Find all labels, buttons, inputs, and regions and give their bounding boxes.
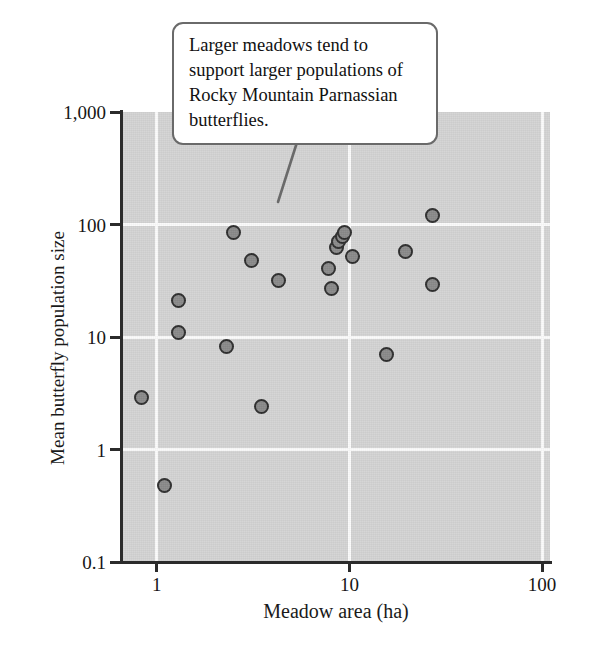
data-point [219, 339, 234, 354]
data-point [425, 277, 440, 292]
plot-area [122, 112, 550, 562]
y-tick-2 [110, 336, 120, 339]
y-tick-4 [110, 111, 120, 114]
data-point [398, 244, 413, 259]
y-tick-1 [110, 448, 120, 451]
data-point [345, 249, 360, 264]
y-tick-label-0: 0.1 [0, 553, 106, 572]
data-point [324, 281, 339, 296]
x-tick-label-0: 1 [152, 575, 162, 594]
x-axis-title: Meadow area (ha) [122, 600, 550, 623]
scatter-plot-figure: 0.11101001,000 110100 Mean butterfly pop… [0, 0, 590, 648]
data-point [171, 293, 186, 308]
y-axis-title: Mean butterfly population size [47, 198, 69, 498]
y-tick-0 [110, 561, 120, 564]
gridline-y-3 [122, 223, 550, 226]
y-tick-3 [110, 223, 120, 226]
x-tick-2 [541, 562, 544, 572]
x-tick-label-2: 100 [528, 575, 557, 594]
data-point [157, 478, 172, 493]
x-tick-1 [348, 562, 351, 572]
callout-text: Larger meadows tend to support larger po… [189, 33, 423, 133]
data-point [171, 325, 186, 340]
gridline-y-1 [122, 448, 550, 451]
x-tick-0 [155, 562, 158, 572]
data-point [244, 253, 259, 268]
x-axis-line [120, 561, 552, 564]
gridline-y-2 [122, 336, 550, 339]
data-point [254, 399, 269, 414]
data-point [226, 225, 241, 240]
y-tick-label-4: 1,000 [0, 103, 106, 122]
data-point [337, 225, 352, 240]
x-tick-label-1: 10 [340, 575, 359, 594]
data-point [425, 208, 440, 223]
data-point [379, 347, 394, 362]
data-point [271, 273, 286, 288]
data-point [134, 390, 149, 405]
data-point [321, 261, 336, 276]
y-axis-line [120, 110, 123, 564]
callout-box: Larger meadows tend to support larger po… [172, 22, 438, 145]
